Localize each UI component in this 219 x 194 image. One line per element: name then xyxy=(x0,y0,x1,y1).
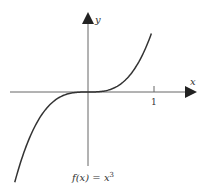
x-axis-label: x xyxy=(190,76,196,87)
y-axis-label: y xyxy=(94,14,101,25)
caption-exponent: 3 xyxy=(110,171,114,179)
y-axis-arrow-icon xyxy=(82,12,94,24)
cubic-function-plot: x y 1 f(x) = x3 xyxy=(0,0,219,194)
caption-base: f(x) = x xyxy=(71,172,110,183)
cubic-curve xyxy=(15,34,152,183)
x-axis-arrow-icon xyxy=(185,86,197,98)
function-caption: f(x) = x3 xyxy=(71,171,114,183)
x-tick-label-1: 1 xyxy=(151,97,157,107)
